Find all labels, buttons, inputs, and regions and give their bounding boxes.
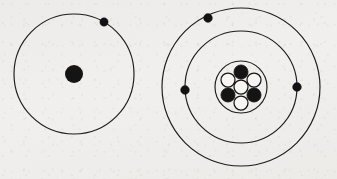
nucleus-neutron-upper-right xyxy=(247,73,261,87)
atom-right-shell-1-electron-1 xyxy=(181,86,190,95)
atom-right-shell-1-electron-2 xyxy=(293,83,302,92)
nucleus-proton-top xyxy=(234,65,248,79)
atom-right-nucleus-cluster xyxy=(221,65,261,110)
bohr-model-diagram xyxy=(0,0,337,179)
atom-left-nucleus xyxy=(65,65,83,83)
atom-right xyxy=(162,8,320,166)
atom-left-shell-1-electron-1 xyxy=(100,18,108,26)
nucleus-neutron-bottom xyxy=(234,96,248,110)
atoms-illustration xyxy=(0,0,337,179)
atom-left xyxy=(14,14,134,134)
nucleus-neutron-upper-left xyxy=(221,73,235,87)
nucleus-neutron-center xyxy=(234,80,248,94)
nucleus-proton-lower-left xyxy=(221,88,235,102)
atom-right-shell-2-electron-1 xyxy=(204,14,213,23)
nucleus-proton-lower-right xyxy=(247,88,261,102)
